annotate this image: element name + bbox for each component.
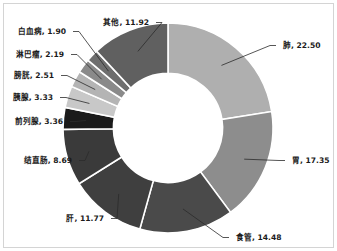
slice-label: 食管, 14.48 xyxy=(236,232,282,242)
donut-slice xyxy=(168,23,272,119)
slice-label: 白血病, 1.90 xyxy=(18,26,66,36)
slice-label: 前列腺, 3.36 xyxy=(15,116,63,126)
slice-label: 胰腺, 3.33 xyxy=(13,92,53,102)
slice-label: 膀胱, 2.51 xyxy=(13,70,54,80)
slice-label: 肝, 11.77 xyxy=(66,214,104,223)
donut-slices xyxy=(63,23,273,233)
slice-label: 其他, 11.92 xyxy=(103,17,149,27)
slice-label: 胃, 17.35 xyxy=(292,156,330,165)
donut-chart: 肺, 22.50胃, 17.35食管, 14.48肝, 11.77结直肠, 8.… xyxy=(0,0,337,251)
slice-label: 结直肠, 8.69 xyxy=(24,155,72,165)
slice-label: 淋巴瘤, 2.19 xyxy=(16,49,64,59)
chart-figure: 肺, 22.50胃, 17.35食管, 14.48肝, 11.77结直肠, 8.… xyxy=(0,0,337,251)
slice-label: 肺, 22.50 xyxy=(283,40,321,50)
